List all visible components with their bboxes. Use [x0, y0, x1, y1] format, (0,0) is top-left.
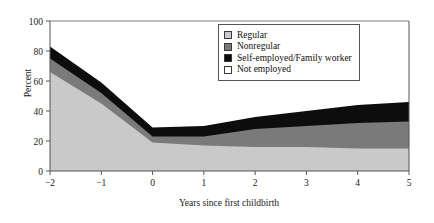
- chart-legend: RegularNonregularSelf-employed/Family wo…: [218, 24, 360, 81]
- x-tick-label: −2: [45, 178, 55, 188]
- legend-label: Not employed: [237, 64, 291, 75]
- stacked-area-chart: 020406080100 −2−1012345 Years since firs…: [0, 0, 434, 223]
- x-tick-label: 5: [407, 178, 412, 188]
- legend-swatch-icon: [224, 31, 232, 39]
- legend-label: Nonregular: [237, 41, 280, 52]
- y-tick-label: 0: [38, 167, 43, 177]
- legend-swatch-icon: [224, 54, 232, 62]
- legend-label: Regular: [237, 30, 267, 41]
- x-tick-label: 2: [253, 178, 258, 188]
- legend-swatch-icon: [224, 43, 232, 51]
- x-tick-label: 4: [355, 178, 360, 188]
- legend-item: Not employed: [224, 64, 352, 75]
- chart-container: 020406080100 −2−1012345 Years since firs…: [0, 0, 434, 223]
- legend-item: Self-employed/Family worker: [224, 53, 352, 64]
- legend-label: Self-employed/Family worker: [237, 53, 352, 64]
- y-tick-label: 80: [34, 47, 44, 57]
- y-tick-label: 100: [29, 17, 44, 27]
- x-tick-label: −1: [96, 178, 106, 188]
- legend-item: Nonregular: [224, 41, 352, 52]
- x-tick-label: 1: [201, 178, 206, 188]
- legend-item: Regular: [224, 30, 352, 41]
- y-axis-label: Percent: [23, 69, 33, 98]
- y-axis-label-holder: Percent: [23, 43, 33, 123]
- x-tick-group: −2−1012345: [45, 171, 412, 188]
- legend-swatch-icon: [224, 66, 232, 74]
- x-tick-label: 3: [304, 178, 309, 188]
- y-tick-label: 40: [34, 107, 44, 117]
- x-axis-label: Years since first childbirth: [179, 198, 279, 208]
- y-tick-label: 60: [34, 77, 44, 87]
- y-tick-label: 20: [34, 137, 44, 147]
- x-tick-label: 0: [150, 178, 155, 188]
